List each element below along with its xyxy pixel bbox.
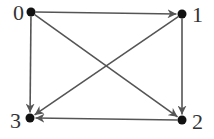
node-3 xyxy=(26,114,35,123)
node-2 xyxy=(178,116,187,125)
edge-0-to-3 xyxy=(30,16,31,112)
edge-1-to-3 xyxy=(35,17,179,115)
node-0 xyxy=(27,8,36,17)
edges-group xyxy=(30,12,182,120)
edge-0-to-1 xyxy=(35,12,176,14)
node-label-2: 2 xyxy=(192,109,203,134)
node-label-0: 0 xyxy=(13,0,24,25)
directed-graph: 0123 xyxy=(0,0,214,139)
node-label-3: 3 xyxy=(10,108,21,133)
edge-2-to-3 xyxy=(35,118,177,120)
node-1 xyxy=(178,10,187,19)
node-label-1: 1 xyxy=(192,2,203,27)
